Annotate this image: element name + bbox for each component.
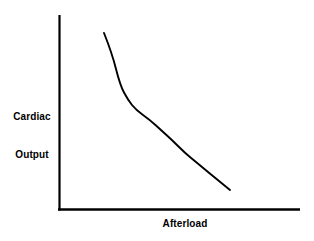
x-axis-label: Afterload (142, 218, 228, 231)
cardiac-output-curve (104, 33, 230, 190)
y-axis-label-line-1: Cardiac (6, 111, 58, 124)
y-axis-label-line-2: Output (6, 149, 58, 162)
y-axis-label: Cardiac Output (6, 86, 58, 186)
cardiac-output-afterload-chart: Cardiac Output Afterload (0, 0, 314, 241)
